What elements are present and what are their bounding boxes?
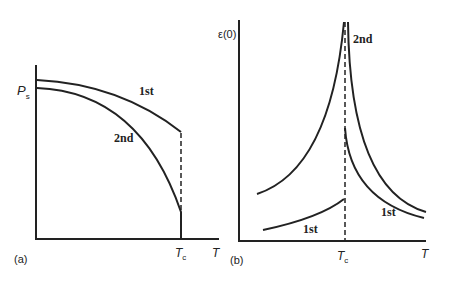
b-tc-label: Tc (337, 249, 348, 265)
diagram-lines (0, 0, 449, 283)
a-curve-1st (37, 80, 181, 132)
figure: Ps 1st 2nd Tc T (a) ε(0) 2nd 1st 1st Tc … (0, 0, 449, 283)
a-label-2nd: 2nd (114, 131, 133, 146)
a-tc-label: Tc (175, 246, 186, 262)
b-y-label: ε(0) (218, 28, 236, 40)
a-label-1st: 1st (139, 84, 154, 99)
b-2nd-left (257, 22, 344, 194)
a-x-label: T (212, 246, 219, 260)
a-tag: (a) (14, 253, 27, 265)
b-2nd-right (348, 22, 426, 212)
b-label-1st-right: 1st (381, 205, 396, 220)
b-x-label: T (421, 247, 428, 261)
a-curve-2nd (37, 88, 181, 239)
b-tag: (b) (230, 254, 243, 266)
b-axes (239, 20, 426, 241)
b-label-1st-left: 1st (303, 222, 318, 237)
a-y-label: Ps (17, 83, 30, 101)
b-label-2nd: 2nd (353, 32, 372, 47)
